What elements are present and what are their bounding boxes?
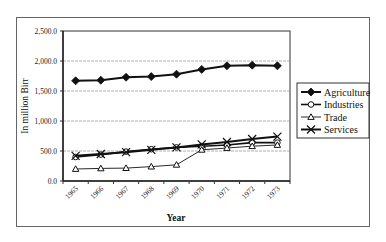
data-series <box>72 61 282 171</box>
y-tick-label: 1,500.0 <box>35 87 58 96</box>
line-chart: 0.0500.01,000.01,500.02,000.02,500.0 196… <box>0 0 386 242</box>
x-tick-label: 1970 <box>189 184 206 201</box>
y-tick-label: 2,500.0 <box>35 27 58 36</box>
y-tick-label: 2,000.0 <box>35 57 58 66</box>
y-axis: 0.0500.01,000.01,500.02,000.02,500.0 <box>35 27 64 186</box>
x-tick-label: 1969 <box>164 184 181 201</box>
y-tick-label: 0.0 <box>48 177 58 186</box>
y-tick-label: 1,000.0 <box>35 117 58 126</box>
legend-label: Trade <box>324 112 348 123</box>
legend: AgricultureIndustriesTradeServices <box>297 83 371 138</box>
legend-label: Agriculture <box>324 87 371 98</box>
x-tick-label: 1971 <box>214 184 231 201</box>
y-axis-title: In million Birr <box>20 77 30 133</box>
legend-item-agriculture: Agriculture <box>301 87 371 98</box>
y-tick-label: 500.0 <box>40 147 57 156</box>
x-axis-title: Year <box>167 213 187 223</box>
x-tick-label: 1965 <box>63 184 80 201</box>
x-tick-label: 1973 <box>265 184 282 201</box>
x-axis: 196519661967196819691970197119721973 <box>63 181 290 201</box>
legend-label: Services <box>324 124 358 135</box>
series-agriculture <box>72 61 282 85</box>
x-tick-label: 1972 <box>240 184 257 201</box>
legend-label: Industries <box>324 99 364 110</box>
gridlines <box>63 31 290 181</box>
x-tick-label: 1966 <box>88 184 105 201</box>
x-tick-label: 1968 <box>139 184 156 201</box>
x-tick-label: 1967 <box>113 184 130 201</box>
